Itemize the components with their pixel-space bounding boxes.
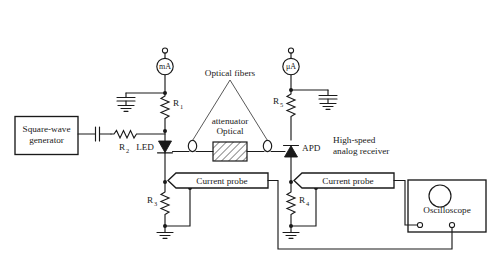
variable-voltage-source-terminal-icon xyxy=(162,48,167,53)
resistor-r1-subscript: 1 xyxy=(180,103,183,110)
resistor-r3-subscript: 3 xyxy=(154,200,157,207)
square-wave-generator-label-line2: generator xyxy=(29,135,64,145)
resistor-r2-symbol xyxy=(111,131,165,139)
current-probe-right-label: Current probe xyxy=(322,176,373,186)
resistor-r5-label: R xyxy=(273,96,280,106)
led-diode-icon xyxy=(159,141,172,153)
resistor-r5-subscript: 5 xyxy=(280,101,283,108)
resistor-r1-symbol xyxy=(161,93,169,131)
oscilloscope-terminal-right xyxy=(449,222,454,227)
circuit-diagram-canvas: mA R 1 Square-wave generator xyxy=(0,0,492,262)
resistor-r4-label: R xyxy=(299,195,306,205)
resistor-r3-label: R xyxy=(147,195,154,205)
optical-link-schematic: mA R 1 Square-wave generator xyxy=(0,0,492,262)
apd-label: APD xyxy=(302,143,321,153)
resistor-r5-symbol xyxy=(287,90,295,140)
variable-power-supply-terminal-icon xyxy=(288,48,293,53)
milliampere-meter-label: mA xyxy=(159,62,171,71)
wire-r4-return-to-probe xyxy=(291,188,316,226)
resistor-r2-subscript: 2 xyxy=(126,147,129,154)
led-label: LED xyxy=(136,142,154,152)
apd-diode-icon xyxy=(285,146,298,157)
resistor-r4-subscript: 4 xyxy=(306,200,310,207)
fiber-coupler-right-icon xyxy=(263,140,271,151)
high-speed-receiver-label-line2: analog receiver xyxy=(333,146,389,156)
wire-r3-return-to-probe xyxy=(165,188,190,226)
optical-attenuator-label-line1: Optical xyxy=(216,126,243,136)
square-wave-generator-label-line1: Square-wave xyxy=(23,124,71,134)
resistor-r4-symbol xyxy=(287,182,295,226)
resistor-r2-label: R xyxy=(119,142,126,152)
fiber-coupler-left-icon xyxy=(188,140,196,151)
current-probe-left-label: Current probe xyxy=(196,176,247,186)
resistor-r3-symbol xyxy=(161,182,169,226)
oscilloscope-label: Oscilloscope xyxy=(423,205,470,215)
high-speed-receiver-label-line1: High-speed xyxy=(333,135,376,145)
resistor-r1-label: R xyxy=(173,98,180,108)
optical-attenuator-label-line2: attenuator xyxy=(212,116,249,126)
microampere-meter-label: μA xyxy=(286,62,296,71)
oscilloscope-terminal-left xyxy=(417,222,422,227)
optical-fibers-label: Optical fibers xyxy=(205,68,256,78)
optical-attenuator-box xyxy=(213,142,247,161)
